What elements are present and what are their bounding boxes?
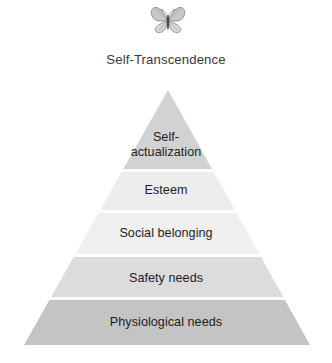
maslow-pyramid-figure: Self-Transcendence Self- actualization E… <box>0 0 332 363</box>
pyramid-tiers <box>24 90 310 345</box>
tier-label-self-actualization: Self- actualization <box>0 130 332 160</box>
tier-label-social-belonging: Social belonging <box>0 226 332 241</box>
tier-label-safety-needs: Safety needs <box>0 271 332 286</box>
pyramid-graphic <box>0 0 332 363</box>
tier-label-esteem: Esteem <box>0 183 332 198</box>
tier-label-physiological-needs: Physiological needs <box>0 315 332 330</box>
